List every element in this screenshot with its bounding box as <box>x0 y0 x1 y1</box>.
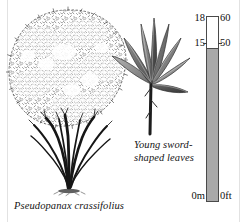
scale-tick-top-imperial: 60 <box>220 12 231 24</box>
leaf-caption-line-2: shaped leaves <box>134 152 194 163</box>
leaf-caption-line-1: Young sword- <box>134 139 192 150</box>
scale-tick-middle-imperial: 50 <box>220 37 231 49</box>
leaf-blade <box>152 85 188 93</box>
species-name-caption: Pseudopanax crassifolius <box>14 200 124 211</box>
leaf-stem <box>145 84 157 134</box>
scale-tick-bottom-imperial: 0ft <box>220 190 232 202</box>
scale-tick-middle-mark-left <box>203 43 207 44</box>
botanical-figure: Young sword- shaped leaves Pseudopanax c… <box>0 0 247 222</box>
scale-tick-bottom-metric: 0m <box>186 190 205 202</box>
scale-tick-top: 18 60 <box>186 12 242 24</box>
scale-tick-middle: 15 50 <box>186 37 242 49</box>
scale-tick-top-metric: 18 <box>186 12 205 24</box>
leaf-spray-illustration <box>108 14 194 140</box>
height-scale: 18 60 15 50 0m 0ft <box>186 12 242 208</box>
scale-tick-bottom: 0m 0ft <box>186 190 242 202</box>
scale-bar-fill <box>207 48 218 201</box>
tree-ground-shadow <box>58 189 80 193</box>
